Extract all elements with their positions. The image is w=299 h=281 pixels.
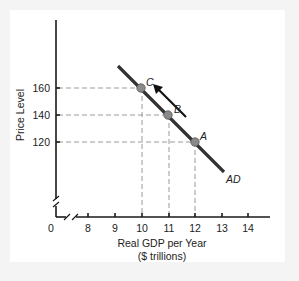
x-tick-13: 13: [216, 222, 228, 234]
point-a: A: [191, 130, 207, 146]
x-axis-break-icon: [64, 214, 78, 220]
x-tick-12: 12: [189, 222, 201, 234]
y-tick-140: 140: [32, 109, 50, 121]
x-tick-10: 10: [136, 222, 148, 234]
x-axis-subtitle: ($ trillions): [138, 250, 186, 262]
x-tick-0: 0: [48, 222, 54, 234]
y-tick-160: 160: [32, 82, 50, 94]
x-tick-11: 11: [164, 222, 175, 234]
point-c-label: C: [146, 76, 154, 88]
y-axis-title: Price Level: [14, 89, 26, 141]
point-b: B: [164, 103, 181, 119]
point-a-label: A: [199, 130, 207, 142]
y-tick-120: 120: [32, 136, 50, 148]
x-axis-title: Real GDP per Year: [117, 237, 207, 249]
ad-curve-label: AD: [225, 173, 241, 185]
ad-chart: 160 140 120 0 8 9 10 11 12 13 14 Price L…: [0, 0, 299, 281]
ad-curve: [118, 66, 224, 172]
axes: [53, 20, 270, 220]
x-tick-9: 9: [112, 222, 118, 234]
point-b-label: B: [174, 103, 181, 115]
x-tick-14: 14: [242, 222, 254, 234]
x-tick-8: 8: [85, 222, 91, 234]
point-c: C: [137, 76, 154, 92]
